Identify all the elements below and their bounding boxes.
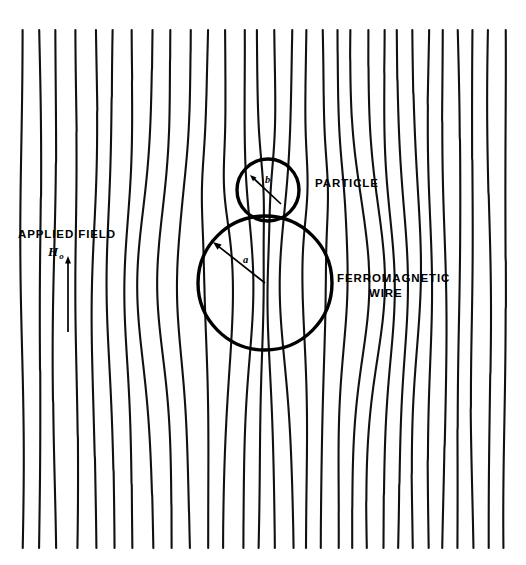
particle-label: PARTICLE: [315, 177, 379, 189]
flux-line: [223, 30, 233, 548]
radius-a-label: a: [243, 254, 248, 265]
flux-line: [428, 30, 432, 548]
flux-line: [487, 30, 491, 548]
flux-line: [20, 30, 23, 548]
field-line-figure: APPLIED FIELD Ho PARTICLE FERROMAGNETIC …: [0, 0, 526, 565]
flux-line: [107, 30, 115, 548]
flux-line: [321, 30, 328, 548]
flux-line: [412, 30, 421, 548]
flux-line: [471, 30, 474, 548]
ferromagnetic-wire-label-line2: WIRE: [369, 287, 403, 299]
field-diagram-canvas: APPLIED FIELD Ho PARTICLE FERROMAGNETIC …: [0, 0, 526, 565]
flux-line: [503, 30, 506, 548]
flux-line: [137, 30, 153, 548]
flux-line: [53, 30, 56, 548]
flux-line: [124, 30, 132, 548]
flux-line: [202, 30, 209, 548]
flux-line: [75, 30, 78, 548]
field-symbol-label: Ho: [47, 244, 64, 261]
flux-line: [257, 30, 264, 548]
ferromagnetic-wire-label-line1: FERROMAGNETIC: [337, 272, 450, 284]
flux-line: [338, 30, 348, 548]
applied-field-label: APPLIED FIELD: [18, 228, 116, 240]
flux-line: [302, 30, 307, 548]
flux-line: [442, 30, 446, 548]
flux-line: [39, 30, 41, 548]
radius-b-label: b: [265, 174, 270, 185]
flux-line-group: [20, 30, 506, 548]
flux-line: [157, 30, 171, 548]
flux-line: [177, 30, 191, 548]
applied-field-direction-head: [65, 256, 71, 263]
flux-line: [92, 30, 98, 548]
flux-line: [243, 30, 253, 548]
flux-line: [280, 30, 294, 548]
flux-line: [267, 30, 275, 548]
flux-line: [457, 30, 460, 548]
radius-leader-group: [65, 175, 281, 332]
radius-a-leader-shaft: [217, 245, 265, 283]
